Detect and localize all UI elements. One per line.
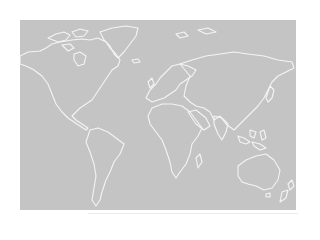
- bottom-shadow-line: [88, 213, 298, 214]
- madagascar-outline: [196, 154, 202, 168]
- india-outline: [214, 116, 228, 140]
- world-map: [20, 20, 296, 210]
- south-america-outline: [86, 128, 124, 206]
- greenland-outline: [100, 26, 138, 58]
- indonesia-outline: [238, 130, 266, 150]
- world-map-outline: [20, 20, 296, 210]
- north-america-outline: [20, 38, 120, 130]
- hudson-bay-outline: [74, 52, 86, 66]
- africa-outline: [148, 104, 202, 178]
- arctic-islands-outline: [48, 29, 88, 51]
- iceland-outline: [132, 59, 140, 63]
- australia-outline: [238, 154, 280, 190]
- japan-outline: [266, 86, 274, 102]
- tasmania-outline: [266, 193, 270, 197]
- asia-outline: [180, 52, 294, 130]
- svalbard-outline: [176, 28, 216, 38]
- new-zealand-outline: [280, 180, 294, 202]
